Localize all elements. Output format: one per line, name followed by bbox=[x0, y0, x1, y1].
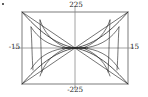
x-axis-max-label: 15 bbox=[130, 43, 146, 51]
cusp-left-lower bbox=[31, 49, 62, 69]
spike-left-inner bbox=[40, 20, 42, 72]
x-axis-min-label: -15 bbox=[2, 43, 20, 51]
plot-canvas bbox=[0, 0, 148, 97]
chord-right-upper bbox=[75, 12, 128, 48]
cusp-left-lower-inner bbox=[40, 48, 66, 76]
cusp-right-upper-inner bbox=[84, 20, 110, 48]
y-axis-min-label: -225 bbox=[60, 86, 90, 94]
chord-left-upper bbox=[22, 12, 75, 48]
cusp-left-upper-inner bbox=[40, 20, 66, 48]
spike-right-outer bbox=[117, 27, 119, 70]
spike-left-outer bbox=[31, 27, 33, 70]
cusp-right-lower bbox=[88, 49, 119, 69]
y-axis-max-label: 225 bbox=[62, 1, 90, 9]
chord-right-lower bbox=[75, 48, 128, 84]
plot-figure: 225 -225 -15 15 bbox=[0, 0, 148, 97]
chord-left-lower bbox=[22, 48, 75, 84]
cusp-right-lower-inner bbox=[84, 48, 110, 76]
cusp-right-upper bbox=[88, 27, 119, 47]
spike-right-inner bbox=[108, 20, 110, 72]
cusp-left-upper bbox=[31, 27, 62, 47]
